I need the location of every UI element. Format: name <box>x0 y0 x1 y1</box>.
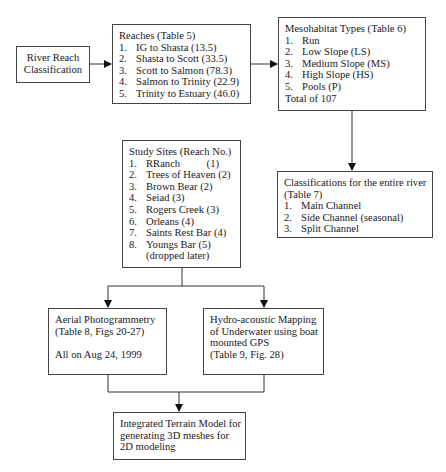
aerial-photogrammetry-box: Aerial Photogrammetry (Table 8, Figs 20-… <box>48 308 167 375</box>
classifications-box: Classifications for the entire river (Ta… <box>277 171 433 238</box>
study-sites-title: Study Sites (Reach No.) <box>129 146 234 158</box>
river-reach-line-2: Classification <box>19 64 87 76</box>
list-item: 3.Split Channel <box>284 223 426 235</box>
terrain-line-1: Integrated Terrain Model for <box>120 418 239 430</box>
river-reach-classification-box: River Reach Classification <box>16 46 90 83</box>
list-item: 5.Pools (P) <box>285 81 419 93</box>
reaches-box: Reaches (Table 5) 1.IG to Shasta (13.5) … <box>112 24 251 104</box>
list-item: 2.Trees of Heaven (2) <box>129 169 234 181</box>
mesohabitat-types-box: Mesohabitat Types (Table 6) 1.Run 2.Low … <box>278 17 426 111</box>
aerial-line-2: (Table 8, Figs 20-27) <box>55 326 160 338</box>
list-item: 4.Salmon to Trinity (22.9) <box>119 76 244 88</box>
hydro-line-1: Hydro-acoustic Mapping <box>210 314 317 326</box>
list-item: 3.Medium Slope (MS) <box>285 58 419 70</box>
mesohabitat-list: 1.Run 2.Low Slope (LS) 3.Medium Slope (M… <box>285 35 419 93</box>
list-item: 1.Run <box>285 35 419 47</box>
list-item: 2.Low Slope (LS) <box>285 46 419 58</box>
list-item: 5.Rogers Creek (3) <box>129 204 234 216</box>
list-item: 7.Saints Rest Bar (4) <box>129 227 234 239</box>
list-item: 5.Trinity to Estuary (46.0) <box>119 88 244 100</box>
hydro-line-3: mounted GPS <box>210 337 317 349</box>
list-item: 2.Shasta to Scott (33.5) <box>119 53 244 65</box>
terrain-line-2: generating 3D meshes for <box>120 430 239 442</box>
reaches-list: 1.IG to Shasta (13.5) 2.Shasta to Scott … <box>119 42 244 100</box>
list-item: 8.Youngs Bar (5) <box>129 239 234 251</box>
terrain-line-3: 2D modeling <box>120 441 239 453</box>
list-item: 2.Side Channel (seasonal) <box>284 212 426 224</box>
list-item: 1.RRanch (1) <box>129 158 234 170</box>
mesohabitat-total: Total of 107 <box>285 93 419 105</box>
river-reach-line-1: River Reach <box>19 52 87 64</box>
list-item-note: (dropped later) <box>129 250 234 262</box>
classifications-title-line-2: (Table 7) <box>284 189 426 201</box>
classifications-list: 1.Main Channel 2.Side Channel (seasonal)… <box>284 200 426 235</box>
aerial-date: All on Aug 24, 1999 <box>55 349 160 361</box>
list-item: 1.Main Channel <box>284 200 426 212</box>
hydro-line-4: (Table 9, Fig. 28) <box>210 349 317 361</box>
list-item: 3.Brown Bear (2) <box>129 181 234 193</box>
list-item: 6.Orleans (4) <box>129 216 234 228</box>
aerial-spacer <box>55 337 160 349</box>
aerial-line-1: Aerial Photogrammetry <box>55 314 160 326</box>
hydro-line-2: of Underwater using boat <box>210 326 317 338</box>
classifications-title-line-1: Classifications for the entire river <box>284 177 426 189</box>
study-sites-box: Study Sites (Reach No.) 1.RRanch (1) 2.T… <box>122 140 241 268</box>
reaches-title: Reaches (Table 5) <box>119 30 244 42</box>
list-item: 4.High Slope (HS) <box>285 69 419 81</box>
mesohabitat-title: Mesohabitat Types (Table 6) <box>285 23 419 35</box>
study-sites-list: 1.RRanch (1) 2.Trees of Heaven (2) 3.Bro… <box>129 158 234 262</box>
integrated-terrain-model-box: Integrated Terrain Model for generating … <box>113 412 246 460</box>
list-item: 3.Scott to Salmon (78.3) <box>119 65 244 77</box>
hydro-acoustic-mapping-box: Hydro-acoustic Mapping of Underwater usi… <box>203 308 324 375</box>
list-item: 4.Seiad (3) <box>129 192 234 204</box>
list-item: 1.IG to Shasta (13.5) <box>119 42 244 54</box>
